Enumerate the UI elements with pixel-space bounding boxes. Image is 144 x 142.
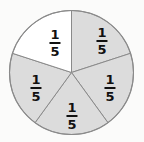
pie-chart-svg bbox=[0, 0, 144, 142]
pie-chart-figure: 1 5 1 5 1 5 1 5 1 5 bbox=[0, 0, 144, 142]
